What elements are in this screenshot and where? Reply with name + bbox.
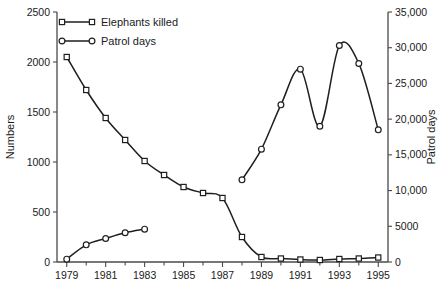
- legend-circle-marker: [89, 38, 95, 44]
- elephants-killed-marker: [142, 158, 147, 163]
- elephants-killed-marker: [123, 137, 128, 142]
- elephants-killed-marker: [200, 190, 205, 195]
- right-axis-tick-label: 35,000: [395, 6, 427, 18]
- left-axis-tick-label: 1500: [27, 106, 51, 118]
- x-axis-tick-label: 1987: [211, 269, 235, 281]
- elephants-killed-marker: [103, 115, 108, 120]
- legend-square-marker: [59, 19, 64, 24]
- x-axis-tick-label: 1979: [55, 269, 79, 281]
- patrol-days-marker: [297, 66, 303, 72]
- left-axis-tick-label: 0: [44, 256, 50, 268]
- right-axis-tick-label: 10,000: [395, 184, 427, 196]
- patrol-days-marker: [356, 61, 362, 67]
- x-axis-tick-label: 1985: [172, 269, 196, 281]
- x-axis-tick-label: 1981: [94, 269, 118, 281]
- elephants-killed-marker: [161, 172, 166, 177]
- legend-label-0: Elephants killed: [101, 16, 178, 28]
- elephants-killed-marker: [298, 257, 303, 262]
- legend-square-marker: [89, 19, 94, 24]
- right-axis-tick-label: 25,000: [395, 77, 427, 89]
- elephants-killed-line: [67, 57, 379, 260]
- elephants-killed-marker: [317, 257, 322, 262]
- x-axis-tick-label: 1995: [367, 269, 391, 281]
- patrol-days-marker: [278, 102, 284, 108]
- left-axis-tick-label: 1000: [27, 156, 51, 168]
- elephants-killed-marker: [239, 234, 244, 239]
- patrol-days-marker: [239, 177, 245, 183]
- patrol-days-marker: [64, 256, 70, 262]
- chart-container: 050010001500200025000500010,00015,00020,…: [0, 0, 448, 292]
- x-axis-tick-label: 1989: [250, 269, 274, 281]
- patrol-days-marker: [375, 127, 381, 133]
- patrol-days-marker: [142, 226, 148, 232]
- patrol-days-marker: [103, 236, 109, 242]
- patrol-days-marker: [122, 230, 128, 236]
- right-axis-tick-label: 20,000: [395, 113, 427, 125]
- line-chart: 050010001500200025000500010,00015,00020,…: [0, 0, 448, 292]
- legend-circle-marker: [59, 38, 65, 44]
- elephants-killed-marker: [337, 256, 342, 261]
- left-axis-tick-label: 2500: [27, 6, 51, 18]
- elephants-killed-marker: [64, 54, 69, 59]
- right-axis-tick-label: 5000: [395, 220, 419, 232]
- patrol-days-marker: [83, 242, 89, 248]
- elephants-killed-marker: [84, 87, 89, 92]
- patrol-days-marker: [317, 123, 323, 129]
- elephants-killed-marker: [356, 256, 361, 261]
- right-axis-tick-label: 0: [395, 256, 401, 268]
- legend-label-1: Patrol days: [101, 35, 157, 47]
- x-axis-tick-label: 1983: [133, 269, 157, 281]
- elephants-killed-marker: [259, 254, 264, 259]
- elephants-killed-marker: [376, 255, 381, 260]
- elephants-killed-marker: [278, 256, 283, 261]
- patrol-days-line: [67, 229, 145, 259]
- elephants-killed-marker: [181, 184, 186, 189]
- left-axis-title: Numbers: [4, 114, 16, 159]
- x-axis-tick-label: 1991: [289, 269, 313, 281]
- x-axis-tick-label: 1993: [328, 269, 352, 281]
- patrol-days-marker: [259, 146, 265, 152]
- patrol-days-marker: [336, 43, 342, 49]
- right-axis-title: Patrol days: [425, 109, 437, 165]
- elephants-killed-marker: [220, 195, 225, 200]
- right-axis-tick-label: 30,000: [395, 41, 427, 53]
- left-axis-tick-label: 2000: [27, 56, 51, 68]
- left-axis-tick-label: 500: [32, 206, 50, 218]
- right-axis-tick-label: 15,000: [395, 148, 427, 160]
